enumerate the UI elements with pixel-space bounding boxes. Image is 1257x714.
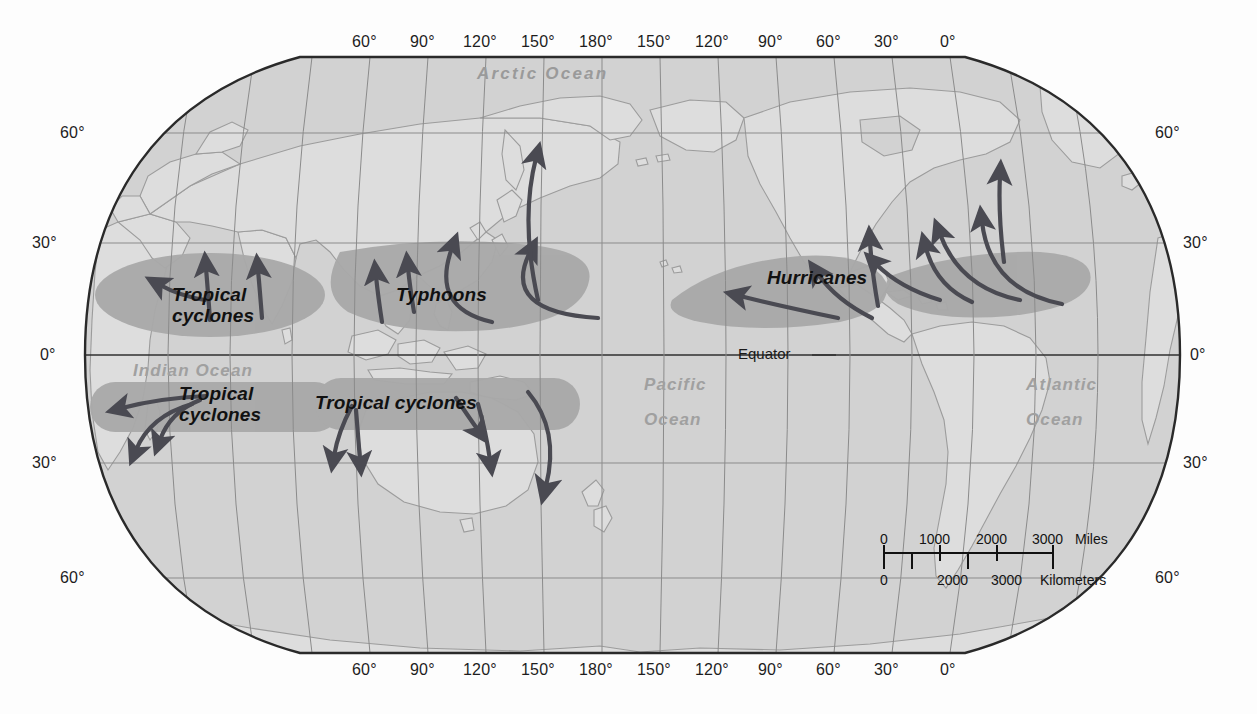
arctic-ocean-label: Arctic Ocean: [477, 64, 608, 84]
scale-km-tick-1: 2000: [937, 572, 968, 588]
atlantic-ocean-label-line1: Atlantic: [1026, 375, 1097, 395]
lon-label-bottom-7: 90°: [758, 661, 783, 679]
lon-label-top-4: 180°: [579, 33, 613, 51]
lat-label-right-2: 0°: [1190, 346, 1206, 364]
lon-label-bottom-0: 60°: [352, 661, 377, 679]
lon-label-top-9: 30°: [874, 33, 899, 51]
scale-miles-tick-0: 0: [880, 531, 888, 547]
lon-label-top-6: 120°: [695, 33, 729, 51]
storm-label-line1: Tropical: [172, 284, 254, 305]
typhoons-label: Typhoons: [396, 284, 487, 305]
lon-label-bottom-6: 120°: [695, 661, 729, 679]
lon-label-top-2: 120°: [463, 33, 497, 51]
scale-km-tick-0: 0: [880, 572, 888, 588]
lat-label-left-3: 30°: [32, 454, 57, 472]
lat-label-right-4: 60°: [1155, 569, 1180, 587]
australia-tropical-cyclones-label: Tropical cyclones: [315, 392, 477, 413]
lon-label-top-0: 60°: [352, 33, 377, 51]
scale-km-unit: Kilometers: [1040, 572, 1106, 588]
pacific-ocean-label-line2: Ocean: [644, 410, 701, 430]
scale-miles-tick-3: 3000: [1032, 531, 1063, 547]
south-indian-tropical-cyclones-label: Tropical cyclones: [179, 383, 261, 425]
lat-label-right-1: 30°: [1183, 234, 1208, 252]
north-indian-tropical-cyclones-label: Tropical cyclones: [172, 284, 254, 326]
lat-label-right-0: 60°: [1155, 124, 1180, 142]
scale-km-tick-2: 3000: [991, 572, 1022, 588]
scale-miles-unit: Miles: [1075, 531, 1108, 547]
storm-label-line1: Tropical: [179, 383, 261, 404]
lon-label-bottom-8: 60°: [816, 661, 841, 679]
lat-label-left-2: 0°: [40, 346, 56, 364]
scale-miles-tick-2: 2000: [976, 531, 1007, 547]
equator-label: Equator: [738, 345, 791, 362]
lon-label-bottom-9: 30°: [874, 661, 899, 679]
hurricanes-label: Hurricanes: [767, 267, 867, 288]
lat-label-left-4: 60°: [60, 569, 85, 587]
lon-label-bottom-2: 120°: [463, 661, 497, 679]
lon-label-bottom-10: 0°: [940, 661, 956, 679]
lat-label-right-3: 30°: [1183, 454, 1208, 472]
lon-label-bottom-1: 90°: [410, 661, 435, 679]
lon-label-bottom-5: 150°: [637, 661, 671, 679]
map-figure: 60° 90° 120° 150° 180° 150° 120° 90° 60°…: [0, 0, 1257, 714]
storm-label-line2: cyclones: [179, 404, 261, 425]
lon-label-top-1: 90°: [410, 33, 435, 51]
lon-label-bottom-4: 180°: [579, 661, 613, 679]
storm-label-line2: cyclones: [172, 305, 254, 326]
lat-label-left-1: 30°: [32, 234, 57, 252]
pacific-ocean-label-line1: Pacific: [644, 375, 707, 395]
lon-label-top-3: 150°: [521, 33, 555, 51]
lon-label-top-8: 60°: [816, 33, 841, 51]
lon-label-top-10: 0°: [940, 33, 956, 51]
world-map-graphic: [0, 0, 1257, 714]
atlantic-ocean-label-line2: Ocean: [1026, 410, 1083, 430]
lon-label-bottom-3: 150°: [521, 661, 555, 679]
scale-miles-tick-1: 1000: [919, 531, 950, 547]
lon-label-top-5: 150°: [637, 33, 671, 51]
lon-label-top-7: 90°: [758, 33, 783, 51]
lat-label-left-0: 60°: [60, 124, 85, 142]
indian-ocean-label: Indian Ocean: [133, 361, 253, 381]
